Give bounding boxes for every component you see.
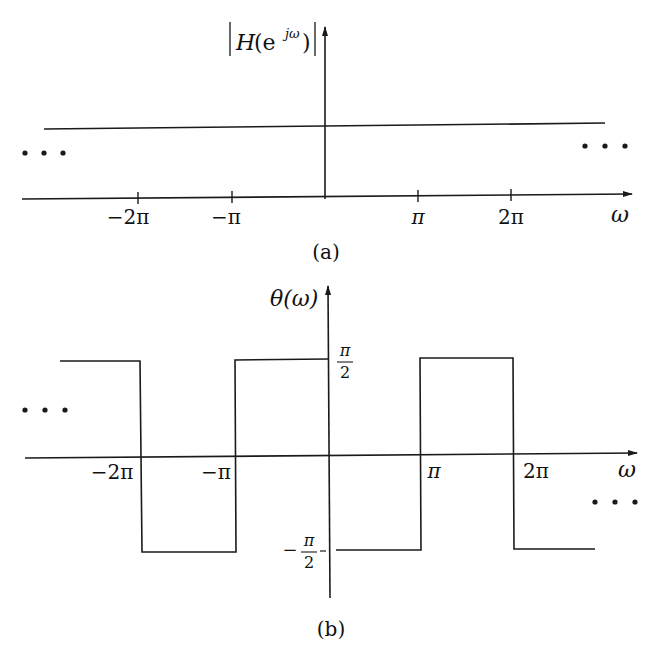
chart-a-tick-label-pi: π [410, 205, 425, 229]
chart-a-ylabel-paren-close: ) [302, 30, 311, 55]
svg-text:2: 2 [304, 553, 314, 572]
chart-a-xlabel: ω [611, 202, 629, 227]
svg-text:π: π [303, 531, 315, 550]
chart-a: H (e jω ) −2π −π π 2π ω (a) [22, 22, 632, 264]
chart-a-tick-label-mpi: −π [211, 205, 241, 229]
chart-b: θ(ω) π 2 − π 2 −2π −π π 2π ω (b) [22, 286, 637, 641]
chart-b-x-axis [25, 453, 637, 458]
chart-b-xlabel: ω [618, 457, 636, 482]
chart-b-tick-label-2pi: 2π [523, 459, 549, 483]
chart-a-ylabel-H: H [235, 30, 256, 55]
chart-b-ylabel: θ(ω) [270, 286, 318, 311]
chart-b-dots-left [22, 407, 67, 412]
svg-text:π: π [339, 341, 351, 360]
svg-text:2: 2 [340, 363, 350, 382]
chart-b-ytick-label-neg-pi-over-2: − π 2 [282, 531, 326, 572]
chart-a-caption: (a) [312, 240, 340, 264]
chart-b-caption: (b) [317, 617, 345, 641]
figure: H (e jω ) −2π −π π 2π ω (a) θ(ω) π [0, 0, 656, 660]
chart-a-dots-right [582, 143, 627, 148]
chart-a-x-axis [22, 194, 632, 199]
chart-a-ylabel-paren-open: (e [254, 30, 276, 55]
chart-b-tick-label-mpi: −π [201, 460, 231, 484]
svg-text:−: − [282, 539, 297, 560]
chart-a-dots-left [22, 150, 65, 155]
chart-a-ylabel-sup: jω [282, 26, 300, 41]
chart-b-ytick-label-pi-over-2: π 2 [337, 341, 353, 382]
chart-a-tick-label-m2pi: −2π [107, 205, 150, 229]
chart-b-tick-label-pi: π [426, 459, 441, 483]
chart-b-y-axis [328, 286, 330, 598]
chart-b-tick-label-m2pi: −2π [91, 460, 134, 484]
chart-b-dots-right [592, 499, 637, 504]
chart-a-tick-label-2pi: 2π [498, 205, 524, 229]
